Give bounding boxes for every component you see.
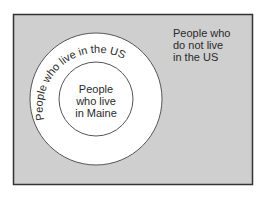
maine-label-line-2: who live: [75, 95, 116, 107]
universe-label-line-2: do not live: [173, 39, 223, 51]
euler-diagram: People who live in the US People who do …: [0, 0, 264, 197]
universe-label-line-3: in the US: [173, 51, 218, 63]
maine-label-line-3: in Maine: [75, 107, 117, 119]
universe-label-line-1: People who: [173, 27, 231, 39]
maine-label-line-1: People: [79, 83, 113, 95]
